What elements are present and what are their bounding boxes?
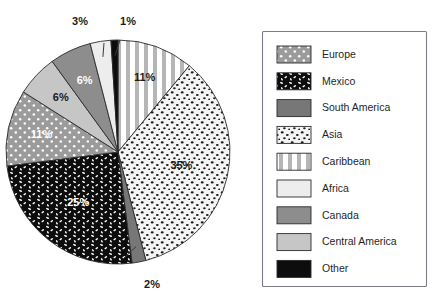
pie-chart-figure: 2%3%1% 11%35%25%11%6%6% EuropeMexicoSout… (0, 0, 437, 300)
legend-label-africa: Africa (322, 182, 349, 194)
legend-swatch-other[interactable] (277, 260, 311, 277)
legend-label-other: Other (322, 262, 349, 274)
slice-value-europe: 11% (31, 128, 53, 140)
legend-label-canada: Canada (322, 209, 359, 221)
slice-value-asia: 35% (170, 159, 192, 171)
legend-swatch-caribbean[interactable] (277, 153, 311, 170)
pie-slices (6, 40, 230, 264)
slice-value-africa: 3% (72, 15, 88, 27)
legend-swatch-central-america[interactable] (277, 234, 311, 251)
legend-label-south-america: South America (322, 101, 390, 113)
legend-swatch-mexico[interactable] (277, 73, 311, 90)
legend-label-mexico: Mexico (322, 75, 355, 87)
slice-value-central-america: 6% (53, 91, 69, 103)
chart-svg: 2%3%1% 11%35%25%11%6%6% EuropeMexicoSout… (0, 0, 437, 300)
legend-label-caribbean: Caribbean (322, 155, 371, 167)
slice-value-canada: 6% (77, 74, 93, 86)
legend-swatch-europe[interactable] (277, 46, 311, 63)
legend-label-central-america: Central America (322, 235, 397, 247)
legend-swatch-canada[interactable] (277, 207, 311, 224)
legend-swatch-asia[interactable] (277, 126, 311, 143)
slice-value-south-america: 2% (144, 278, 160, 290)
slice-value-caribbean: 11% (134, 71, 156, 83)
legend-label-asia: Asia (322, 128, 343, 140)
legend-swatch-africa[interactable] (277, 180, 311, 197)
legend-label-europe: Europe (322, 48, 356, 60)
legend-swatch-south-america[interactable] (277, 100, 311, 117)
slice-value-other: 1% (120, 15, 136, 27)
slice-value-mexico: 25% (67, 196, 89, 208)
